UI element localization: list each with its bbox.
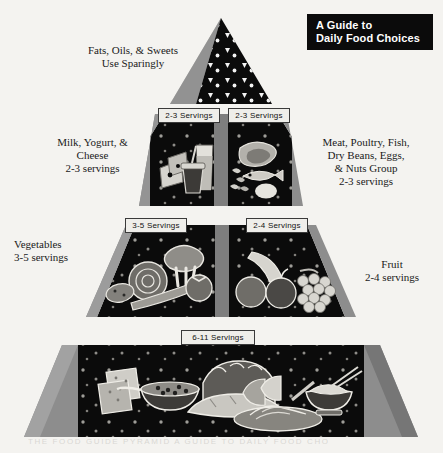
food-pyramid-figure: Fats, Oils, & Sweets Use Sparingly Milk,… bbox=[0, 0, 443, 453]
label-meat-poultry-fish: Meat, Poultry, Fish, Dry Beans, Eggs, & … bbox=[296, 136, 436, 188]
serving-tab-grains: 6-11 Servings bbox=[181, 330, 255, 345]
tier-fruit bbox=[215, 225, 356, 317]
tier-milk-yogurt-cheese bbox=[139, 114, 214, 206]
label-vegetables: Vegetables 3-5 servings bbox=[14, 238, 124, 264]
title-line-2: Daily Food Choices bbox=[316, 32, 433, 45]
serving-tab-fruit: 2-4 Servings bbox=[246, 218, 308, 233]
label-fats-oils-sweets: Fats, Oils, & Sweets Use Sparingly bbox=[58, 44, 208, 70]
title-plate: A Guide to Daily Food Choices bbox=[307, 14, 433, 50]
serving-tab-meat: 2-3 Servings bbox=[228, 108, 290, 123]
icon-egg bbox=[255, 184, 277, 199]
label-fruit: Fruit 2-4 servings bbox=[348, 258, 436, 284]
tier-meat-poultry-fish bbox=[214, 114, 303, 206]
icon-tomato bbox=[186, 275, 212, 301]
icon-orange bbox=[236, 277, 266, 307]
label-milk-yogurt-cheese: Milk, Yogurt, & Cheese 2-3 servings bbox=[35, 136, 150, 175]
serving-tab-vegetables: 3-5 Servings bbox=[125, 218, 187, 233]
footer-caption: THE FOOD GUIDE PYRAMID A GUIDE TO DAILY … bbox=[28, 437, 328, 447]
tier-bread-cereal-rice-pasta bbox=[24, 345, 418, 437]
title-line-1: A Guide to bbox=[316, 19, 433, 32]
serving-tab-milk: 2-3 Servings bbox=[158, 108, 220, 123]
